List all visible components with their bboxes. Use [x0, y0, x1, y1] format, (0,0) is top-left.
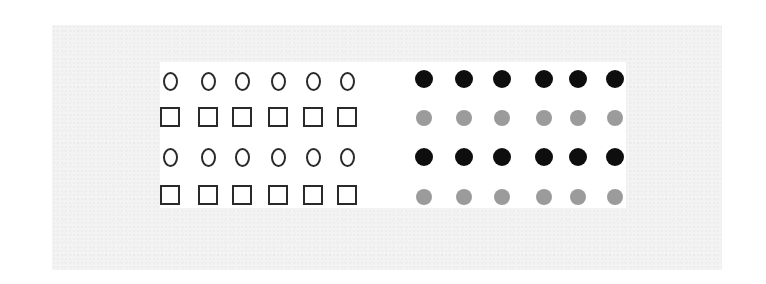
black-dot-icon — [606, 148, 624, 166]
circle-outline-icon — [163, 72, 178, 91]
square-outline-icon — [337, 107, 357, 127]
square-outline-icon — [160, 185, 180, 205]
black-dot-icon — [455, 70, 473, 88]
gray-dot-icon — [536, 189, 552, 205]
circle-outline-icon — [235, 72, 250, 91]
black-dot-icon — [455, 148, 473, 166]
gray-dot-icon — [456, 189, 472, 205]
square-outline-icon — [337, 185, 357, 205]
black-dot-icon — [535, 70, 553, 88]
black-dot-icon — [415, 148, 433, 166]
square-outline-icon — [232, 185, 252, 205]
circle-outline-icon — [163, 148, 178, 167]
gray-dot-icon — [456, 110, 472, 126]
black-dot-icon — [569, 148, 587, 166]
circle-outline-icon — [340, 72, 355, 91]
gray-dot-icon — [494, 110, 510, 126]
square-outline-icon — [303, 185, 323, 205]
circle-outline-icon — [271, 148, 286, 167]
square-outline-icon — [198, 185, 218, 205]
square-outline-icon — [232, 107, 252, 127]
gray-dot-icon — [607, 189, 623, 205]
square-outline-icon — [198, 107, 218, 127]
black-dot-icon — [415, 70, 433, 88]
gray-dot-icon — [607, 110, 623, 126]
square-outline-icon — [268, 185, 288, 205]
circle-outline-icon — [306, 148, 321, 167]
black-dot-icon — [493, 148, 511, 166]
square-outline-icon — [303, 107, 323, 127]
square-outline-icon — [160, 107, 180, 127]
circle-outline-icon — [271, 72, 286, 91]
circle-outline-icon — [201, 148, 216, 167]
square-outline-icon — [268, 107, 288, 127]
circle-outline-icon — [306, 72, 321, 91]
gray-dot-icon — [570, 110, 586, 126]
circle-outline-icon — [340, 148, 355, 167]
circle-outline-icon — [201, 72, 216, 91]
gray-dot-icon — [416, 110, 432, 126]
black-dot-icon — [535, 148, 553, 166]
black-dot-icon — [493, 70, 511, 88]
gray-dot-icon — [494, 189, 510, 205]
black-dot-icon — [569, 70, 587, 88]
black-dot-icon — [606, 70, 624, 88]
gray-dot-icon — [570, 189, 586, 205]
gray-dot-icon — [536, 110, 552, 126]
circle-outline-icon — [235, 148, 250, 167]
gray-dot-icon — [416, 189, 432, 205]
figure-inner-area — [160, 62, 626, 208]
